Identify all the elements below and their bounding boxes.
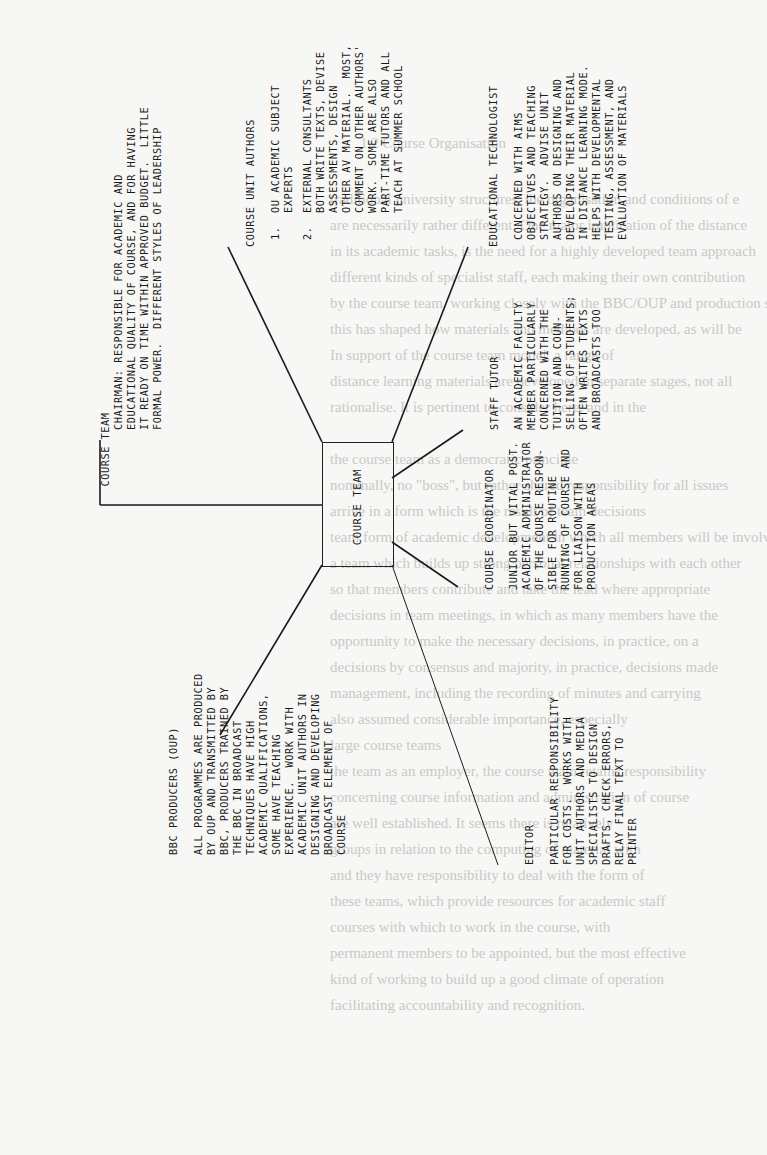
educational-technologist-text: CONCERNED WITH AIMS OBJECTIVES AND TEACH… [512, 80, 629, 240]
course-coordinator-body: JUNIOR BUT VITAL POST. ACADEMIC ADMINIST… [481, 445, 611, 590]
course-coordinator-text: JUNIOR BUT VITAL POST. ACADEMIC ADMINIST… [507, 445, 598, 590]
bbc-producers-body: ALL PROGRAMMES ARE PRODUCED BY OUP AND T… [166, 680, 361, 855]
bbc-producers-text: ALL PROGRAMMES ARE PRODUCED BY OUP AND T… [192, 680, 348, 855]
chairman-description: CHAIRMAN: RESPONSIBLE FOR ACADEMIC AND E… [112, 140, 164, 430]
course-team-box: COURSE TEAM [322, 442, 394, 567]
educational-technologist-body: CONCERNED WITH AIMS OBJECTIVES AND TEACH… [486, 80, 642, 240]
course-unit-authors-item-2: 2. EXTERNAL CONSULTANTS BOTH WRITE TEXTS… [275, 20, 418, 240]
course-team-label: COURSE TEAM [351, 469, 363, 545]
staff-tutor-body: AN ACADEMIC FACULTY MEMBER PARTICULARLY … [486, 295, 616, 430]
editor-text: PARTICULAR RESPONSIBILITY FOR COSTS. WOR… [548, 700, 639, 865]
staff-tutor-text: AN ACADEMIC FACULTY MEMBER PARTICULARLY … [512, 295, 603, 430]
chairman-text: CHAIRMAN: RESPONSIBLE FOR ACADEMIC AND E… [86, 140, 177, 430]
editor-body: PARTICULAR RESPONSIBILITY FOR COSTS. WOR… [522, 700, 652, 865]
author-item: 2. EXTERNAL CONSULTANTS BOTH WRITE TEXTS… [301, 20, 405, 240]
